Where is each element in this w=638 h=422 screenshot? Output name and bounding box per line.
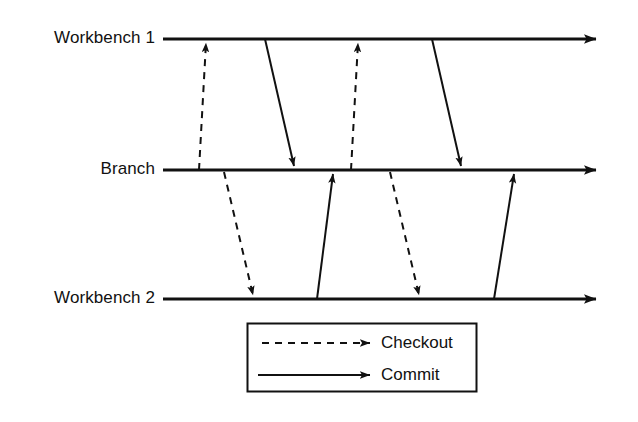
commit-arrow-4 [494,174,514,299]
lifeline-label-branch: Branch [101,159,155,179]
legend-label-commit: Commit [381,365,440,385]
commit-arrow-3 [432,39,461,166]
checkout-arrow-1 [199,43,206,170]
lifeline-label-workbench-1: Workbench 1 [54,28,155,48]
checkout-arrow-2 [224,172,253,295]
diagram-graphics [0,0,638,422]
lifeline-label-workbench-2: Workbench 2 [54,288,155,308]
commit-arrow-2 [317,174,333,299]
legend-label-checkout: Checkout [381,333,453,353]
checkout-arrow-4 [390,172,419,295]
diagram-canvas: Workbench 1 Branch Workbench 2 Checkout … [0,0,638,422]
commit-arrow-1 [265,39,294,166]
checkout-arrow-3 [351,43,358,170]
